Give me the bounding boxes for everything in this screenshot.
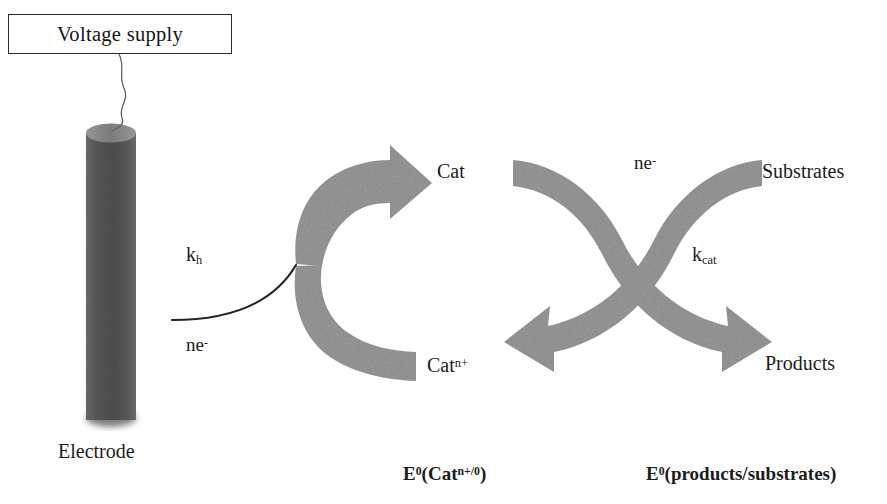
- electrode-label: Electrode: [58, 440, 135, 463]
- kh-subscript: h: [196, 253, 202, 267]
- kh-base: k: [186, 243, 196, 265]
- products-label: Products: [765, 352, 835, 375]
- e0-left-e: E: [403, 463, 416, 484]
- e0-left-sup2: n+/0: [457, 465, 479, 478]
- kcat-subscript: cat: [702, 253, 716, 267]
- ne-left-base: ne: [186, 334, 204, 355]
- diagram-graphics: [0, 0, 887, 504]
- ne-left-superscript: -: [204, 336, 208, 349]
- figure-canvas: Voltage supply Electrode kh ne- Cat Catn…: [0, 0, 887, 504]
- cycle-arrow-upper-arm: [295, 145, 432, 266]
- catalyst-cycle-arrow: [295, 145, 432, 381]
- standard-potential-catalyst-label: E0(Catn+/0): [403, 463, 486, 485]
- electrode-cylinder: [86, 124, 136, 428]
- catalytic-crossing-arrows: [504, 160, 772, 372]
- cycle-arrow-lower-arm: [295, 265, 416, 381]
- ne-right-base: ne: [634, 152, 652, 173]
- voltage-supply-box: Voltage supply: [8, 14, 232, 54]
- ne-right-superscript: -: [652, 154, 656, 167]
- wavy-wire: [113, 52, 126, 131]
- electrons-right-label: ne-: [634, 152, 656, 174]
- substrates-label: Substrates: [762, 160, 844, 183]
- catalyst-reduced-label: Cat: [437, 160, 465, 183]
- catn-superscript: n+: [455, 356, 468, 370]
- standard-potential-substrate-label: E0(products/substrates): [646, 463, 836, 485]
- electrode-body: [86, 133, 136, 420]
- electrons-left-label: ne-: [186, 334, 208, 356]
- e0-left-rest: (Cat: [422, 463, 458, 484]
- rate-constant-kcat-label: kcat: [692, 243, 716, 268]
- e0-right-rest: (products/substrates): [665, 463, 837, 484]
- voltage-supply-label: Voltage supply: [57, 23, 183, 46]
- rate-constant-kh-label: kh: [186, 243, 202, 268]
- e0-right-e: E: [646, 463, 659, 484]
- catn-base: Cat: [427, 354, 455, 376]
- kcat-base: k: [692, 243, 702, 265]
- e0-left-close: ): [480, 463, 486, 484]
- electron-transfer-curve: [172, 265, 296, 320]
- catalyst-oxidized-label: Catn+: [427, 354, 468, 377]
- electrode-top-cap: [86, 124, 136, 143]
